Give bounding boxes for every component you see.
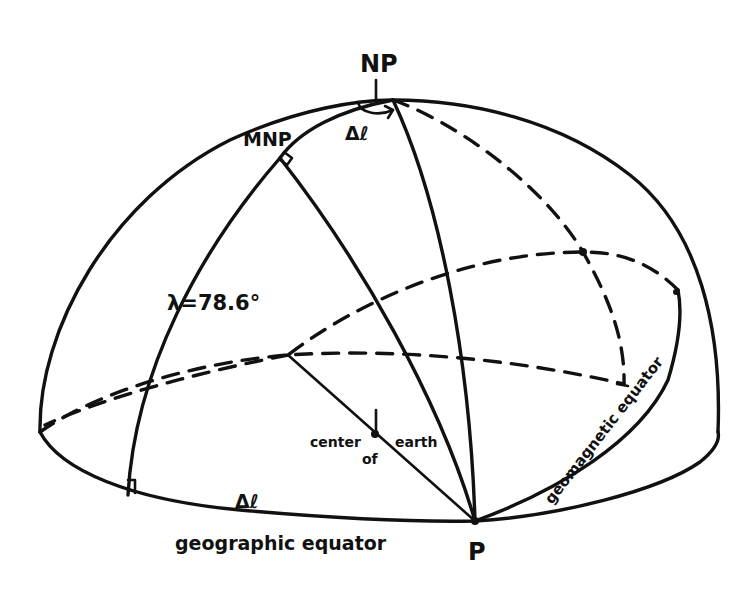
- label-delta-l-top: Δℓ: [345, 122, 369, 144]
- geomagnetic-intersection-dot: [579, 248, 587, 256]
- geomagnetic-equator-back-left: [45, 355, 288, 425]
- geomagnetic-edge-dot: [673, 289, 679, 295]
- label-geographic-equator: geographic equator: [175, 532, 387, 554]
- point-p-dot: [471, 517, 479, 525]
- label-earth-word: earth: [395, 434, 438, 450]
- meridian-back-dashed: [393, 100, 624, 384]
- label-magnetic-north-pole: MNP: [243, 128, 292, 150]
- label-center-word: center: [310, 434, 361, 450]
- label-delta-l-bottom: Δℓ: [235, 490, 259, 512]
- label-latitude: λ=78.6°: [167, 291, 260, 315]
- label-north-pole: NP: [360, 50, 398, 78]
- geomagnetic-equator-back: [288, 252, 678, 355]
- label-geomagnetic-equator: geomagnetic equator: [541, 353, 667, 508]
- label-of-word: of: [362, 451, 379, 467]
- label-point-p: P: [468, 538, 486, 566]
- hemisphere-diagram: NP MNP Δℓ λ=78.6° center of earth Δℓ geo…: [0, 0, 754, 598]
